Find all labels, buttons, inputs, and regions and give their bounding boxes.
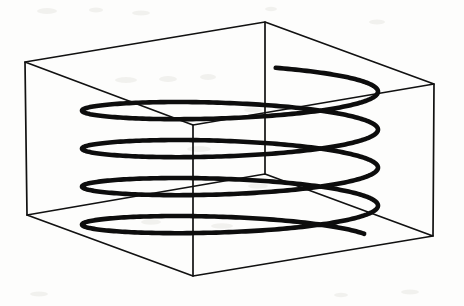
scan-speck — [30, 291, 48, 296]
scan-speck — [334, 293, 348, 297]
scan-speck — [187, 146, 211, 152]
scan-speck — [200, 74, 216, 80]
scan-speck — [211, 223, 233, 229]
scan-speck — [369, 20, 385, 25]
scan-speck — [141, 219, 161, 225]
box-vertical-edge-left — [25, 62, 27, 215]
scan-speck — [265, 7, 277, 11]
scan-speck — [248, 183, 268, 189]
figure-canvas — [0, 0, 464, 306]
box-vertical-edge-right — [433, 84, 434, 236]
scan-speck — [37, 8, 57, 14]
scan-speck — [89, 8, 103, 13]
helix-coil-group — [82, 68, 378, 234]
scan-speck — [132, 10, 150, 15]
helix-coil — [82, 68, 378, 234]
figure-root — [0, 0, 464, 306]
scan-speck — [401, 289, 419, 294]
scan-speck — [159, 76, 177, 82]
scan-speck — [115, 77, 137, 83]
scan-speck — [244, 107, 262, 112]
